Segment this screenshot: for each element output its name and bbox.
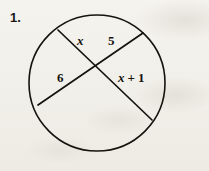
segment-label-x-plus-1-variable: x [118,70,125,85]
segment-label-x-plus-1-operator: + [128,70,135,85]
circle-chords-diagram [0,0,209,171]
segment-label-x-plus-1: x+1 [118,71,144,84]
segment-label-five: 5 [108,34,115,47]
segment-label-x: x [77,34,84,47]
geometry-figure: 1. x 5 6 x+1 [0,0,209,171]
segment-label-x-plus-1-addend: 1 [138,70,145,85]
segment-label-six: 6 [57,71,64,84]
circle-outline [29,15,165,151]
chord-five-and-six [38,33,143,105]
